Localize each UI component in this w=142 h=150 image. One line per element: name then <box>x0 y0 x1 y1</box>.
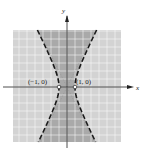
hyperbola-graph: y x (−1, 0) (1, 0) <box>0 0 142 150</box>
left-vertex-label: (−1, 0) <box>28 78 48 86</box>
x-axis-label: x <box>135 84 140 92</box>
y-axis-label: y <box>61 7 66 15</box>
right-vertex-label: (1, 0) <box>76 78 92 86</box>
